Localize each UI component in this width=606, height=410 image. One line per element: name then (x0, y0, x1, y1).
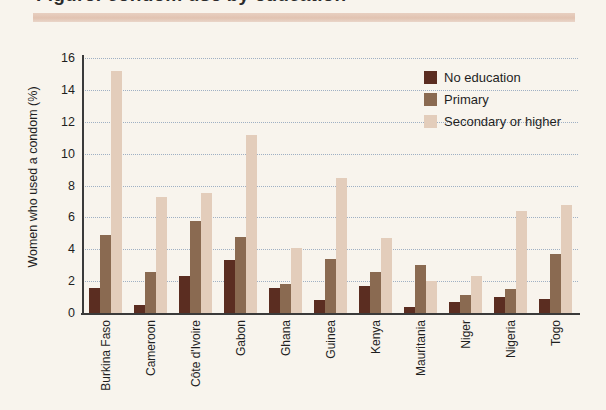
bar-group (263, 58, 308, 313)
x-axis-label-cell: Guinea (308, 318, 353, 408)
legend-label: No education (444, 70, 521, 85)
x-axis-tick-label: Kenya (369, 320, 383, 354)
x-axis-tick-label: Togo (549, 320, 563, 346)
bar[interactable] (426, 281, 437, 313)
bar[interactable] (336, 178, 347, 313)
x-axis-label-cell: Côte d'Ivoire (173, 318, 218, 408)
bar-group (83, 58, 128, 313)
x-axis-label-cell: Ghana (263, 318, 308, 408)
y-axis-tick-label: 6 (37, 211, 75, 224)
x-axis-label-cell: Nigeria (488, 318, 533, 408)
bar[interactable] (291, 248, 302, 313)
x-axis-label-cell: Niger (443, 318, 488, 408)
bar-group (173, 58, 218, 313)
bar[interactable] (269, 288, 280, 314)
y-axis-tick-label: 2 (37, 275, 75, 288)
x-axis-tick-label: Guinea (324, 320, 338, 359)
bar[interactable] (370, 272, 381, 313)
x-axis-line (81, 313, 580, 315)
x-axis-tick-label: Burkina Faso (99, 320, 113, 391)
x-axis-labels: Burkina FasoCameroonCôte d'IvoireGabonGh… (83, 318, 578, 408)
bar[interactable] (505, 289, 516, 313)
y-axis-tick-label: 8 (37, 180, 75, 193)
bar[interactable] (460, 295, 471, 313)
bar[interactable] (100, 235, 111, 313)
bar-group (128, 58, 173, 313)
y-axis-tick-label: 4 (37, 243, 75, 256)
page-title: Figure: condom use by education (36, 0, 346, 6)
y-axis-tick-label: 10 (37, 148, 75, 161)
y-axis-tick-label: 14 (37, 84, 75, 97)
bar[interactable] (381, 238, 392, 313)
bar[interactable] (89, 288, 100, 314)
bar[interactable] (134, 305, 145, 313)
bar[interactable] (325, 259, 336, 313)
header-rule (33, 13, 575, 22)
legend-item[interactable]: Primary (424, 92, 561, 107)
x-axis-label-cell: Burkina Faso (83, 318, 128, 408)
x-axis-tick-label: Côte d'Ivoire (189, 320, 203, 387)
bar-group (308, 58, 353, 313)
bar[interactable] (561, 205, 572, 313)
y-axis-tick-label: 0 (37, 307, 75, 320)
x-axis-label-cell: Cameroon (128, 318, 173, 408)
bar[interactable] (235, 237, 246, 314)
bar[interactable] (404, 307, 415, 313)
bar[interactable] (494, 297, 505, 313)
legend-swatch (424, 93, 437, 106)
legend-swatch (424, 115, 437, 128)
bar-group (218, 58, 263, 313)
y-axis-tick-label: 12 (37, 116, 75, 129)
y-axis-tick-label: 16 (37, 52, 75, 65)
bar[interactable] (314, 300, 325, 313)
legend-item[interactable]: Secondary or higher (424, 114, 561, 129)
bar[interactable] (190, 221, 201, 313)
bar[interactable] (201, 193, 212, 313)
bar[interactable] (224, 260, 235, 313)
bar[interactable] (516, 211, 527, 313)
bar[interactable] (280, 284, 291, 313)
legend-swatch (424, 71, 437, 84)
bar[interactable] (471, 276, 482, 313)
legend-label: Secondary or higher (444, 114, 561, 129)
bar[interactable] (145, 272, 156, 313)
x-axis-tick-label: Ghana (279, 320, 293, 356)
x-axis-tick-label: Niger (459, 320, 473, 349)
x-axis-tick-label: Nigeria (504, 320, 518, 358)
legend-label: Primary (444, 92, 489, 107)
chart-legend: No educationPrimarySecondary or higher (424, 70, 561, 136)
bar[interactable] (359, 286, 370, 313)
x-axis-label-cell: Togo (533, 318, 578, 408)
bar[interactable] (111, 71, 122, 313)
bar-group (353, 58, 398, 313)
bar[interactable] (550, 254, 561, 313)
chart-page: Figure: condom use by education Women wh… (0, 0, 606, 410)
x-axis-label-cell: Gabon (218, 318, 263, 408)
bar[interactable] (179, 276, 190, 313)
x-axis-tick-label: Cameroon (144, 320, 158, 376)
bar[interactable] (156, 197, 167, 313)
x-axis-label-cell: Kenya (353, 318, 398, 408)
bar[interactable] (415, 265, 426, 313)
x-axis-tick-label: Mauritania (414, 320, 428, 376)
x-axis-tick-label: Gabon (234, 320, 248, 356)
bar[interactable] (246, 135, 257, 314)
bar[interactable] (539, 299, 550, 313)
page-title-clipped: Figure: condom use by education (0, 0, 606, 11)
bar[interactable] (449, 302, 460, 313)
legend-item[interactable]: No education (424, 70, 561, 85)
x-axis-label-cell: Mauritania (398, 318, 443, 408)
